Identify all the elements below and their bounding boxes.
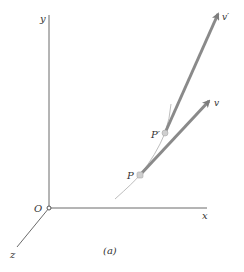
origin-label: O — [34, 203, 42, 214]
vector-v-label: v — [214, 98, 219, 108]
velocity-vector-v-prime — [165, 14, 218, 133]
point-p-prime — [162, 130, 168, 136]
origin-point — [47, 206, 51, 210]
vector-v-prime-label: v′ — [222, 12, 229, 22]
point-p — [137, 172, 143, 178]
z-axis-label: z — [9, 249, 16, 260]
point-p-prime-label: P′ — [150, 129, 161, 140]
point-p-label: P — [126, 170, 134, 181]
z-axis — [17, 208, 49, 247]
figure-caption: (a) — [103, 245, 117, 256]
y-axis-label: y — [39, 13, 46, 24]
x-axis-label: x — [202, 210, 208, 221]
velocity-diagram: y x z O P P′ v v′ (a) — [0, 0, 244, 272]
